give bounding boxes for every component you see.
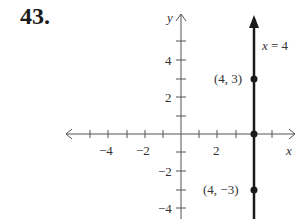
point-4-neg3 (251, 187, 258, 194)
y-axis-label: y (165, 10, 173, 25)
x-tick-label: 2 (213, 143, 220, 158)
y-tick-label: −2 (158, 164, 172, 179)
point-label-bottom: (4, −3) (203, 182, 239, 197)
x-tick-label: −4 (99, 143, 113, 158)
point-4-3 (251, 76, 258, 83)
y-tick-label: 2 (165, 90, 172, 105)
point-4-0 (251, 131, 258, 138)
y-tick-label: 4 (165, 53, 172, 68)
coordinate-plane: y x −4 −2 2 4 2 −2 −4 x = 4 (4, 3) (4, −… (0, 0, 298, 219)
point-label-top: (4, 3) (214, 71, 242, 86)
x-axis-label: x (285, 143, 292, 158)
x-tick-label: −2 (136, 143, 150, 158)
y-tick-label: −4 (158, 201, 172, 216)
line-label: x = 4 (261, 38, 289, 53)
y-axis (176, 14, 186, 219)
